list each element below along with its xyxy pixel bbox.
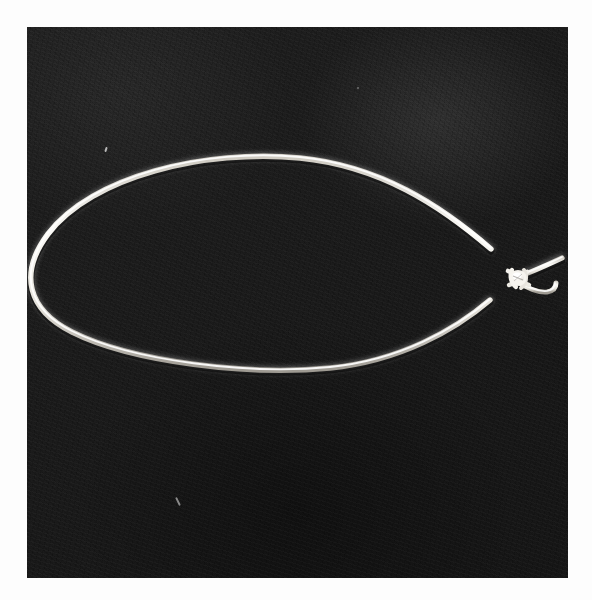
- cord-illustration: [27, 27, 568, 578]
- photograph: [27, 27, 568, 578]
- photo-caption: [27, 582, 568, 598]
- cord-knot: [508, 270, 529, 288]
- cord-highlight: [31, 155, 491, 369]
- cord-drop-shadow: [31, 158, 562, 372]
- page-root: [0, 0, 592, 600]
- print-speck-3: [357, 87, 359, 89]
- cord-loop: [31, 156, 491, 370]
